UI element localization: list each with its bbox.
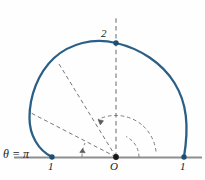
- tick-label-right-one: 1: [180, 161, 186, 172]
- point-apex-two: [113, 40, 118, 45]
- angle-arc-inner-arrowhead: [98, 120, 104, 125]
- angle-arc-inner-extension: [98, 115, 142, 124]
- radial-ray-upper: [58, 62, 117, 158]
- theta-equals-pi-label: θ = π: [3, 148, 29, 160]
- apex-label-two: 2: [101, 28, 107, 39]
- polar-curve: [30, 41, 187, 157]
- polar-curve-figure: θ = π 1 O 1 2: [0, 0, 205, 180]
- angle-arc-inner: [142, 125, 157, 152]
- tick-label-left-one: 1: [48, 161, 54, 172]
- point-right-one: [181, 154, 186, 159]
- angle-arc-wide-arrowhead: [80, 149, 85, 153]
- angle-arc-outer: [126, 137, 139, 158]
- point-left-one: [49, 154, 54, 159]
- origin-label: O: [110, 161, 118, 172]
